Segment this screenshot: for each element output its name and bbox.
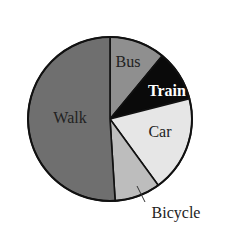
label-walk: Walk [53, 109, 86, 126]
label-train: Train [148, 82, 186, 99]
label-bicycle: Bicycle [152, 204, 201, 222]
pie-chart: Bus Train Car Walk Bicycle [0, 0, 237, 242]
label-bus: Bus [116, 53, 141, 70]
label-car: Car [148, 123, 172, 140]
